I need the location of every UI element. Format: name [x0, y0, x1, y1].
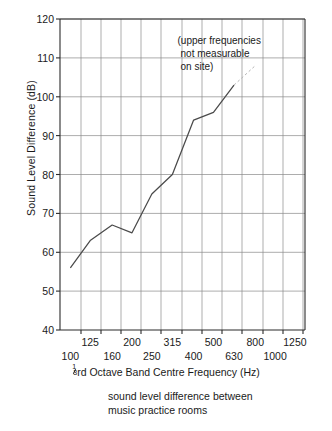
annotation-line-2: not measurable — [178, 48, 261, 61]
x-tick-label: 160 — [103, 351, 121, 361]
y-tick-label: 40 — [20, 325, 54, 335]
data-series-line — [70, 85, 234, 268]
y-tick-label: 70 — [20, 208, 54, 218]
x-tick-label: 500 — [205, 337, 223, 347]
x-axis-title: 13rd Octave Band Centre Frequency (Hz) — [0, 366, 332, 378]
fraction-denominator: 3 — [73, 369, 77, 376]
x-tick-label: 315 — [164, 337, 182, 347]
x-tick-label: 400 — [185, 351, 203, 361]
figure-caption: sound level difference between music pra… — [108, 389, 253, 417]
x-axis-title-text: rd Octave Band Centre Frequency (Hz) — [77, 366, 260, 378]
plot-annotation: (upper frequencies not measurable on sit… — [178, 35, 261, 73]
x-tick-label: 1000 — [263, 351, 286, 361]
y-tick-label: 90 — [20, 131, 54, 141]
x-tick-label: 125 — [81, 337, 99, 347]
x-tick-label: 250 — [143, 351, 161, 361]
x-tick-label: 100 — [62, 351, 80, 361]
y-tick-marks — [56, 19, 60, 330]
figure: Sound Level Difference (dB) — [0, 0, 332, 431]
y-tick-label: 80 — [20, 170, 54, 180]
y-tick-label: 110 — [20, 53, 54, 63]
one-third-fraction-icon: 13 — [72, 366, 77, 376]
caption-line-2: music practice rooms — [108, 403, 253, 417]
y-tick-label: 60 — [20, 247, 54, 257]
annotation-line-1: (upper frequencies — [178, 35, 261, 48]
x-tick-label: 1250 — [283, 337, 306, 347]
x-tick-label: 200 — [123, 337, 141, 347]
x-tick-marks — [81, 330, 303, 334]
x-tick-label: 630 — [225, 351, 243, 361]
y-tick-label: 50 — [20, 286, 54, 296]
y-tick-label: 100 — [20, 92, 54, 102]
x-tick-label: 800 — [246, 337, 264, 347]
annotation-line-3: on site) — [178, 61, 261, 74]
caption-line-1: sound level difference between — [108, 389, 253, 403]
y-tick-label: 120 — [20, 14, 54, 24]
